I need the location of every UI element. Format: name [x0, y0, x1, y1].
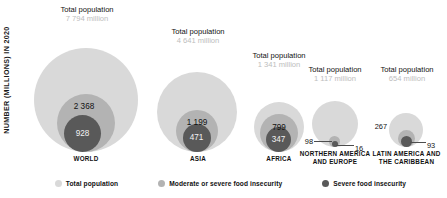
- total-population-caption-asia: Total population 4 641 million: [158, 28, 238, 46]
- total-population-value: 654 million: [368, 75, 446, 84]
- leader-line-moderate-severe-northern-america-and-europe: [314, 141, 332, 142]
- legend-label-moderate-or-severe-food-insecurity: Moderate or severe food insecurity: [169, 180, 282, 187]
- value-label-severe-world: 928: [68, 129, 97, 138]
- y-axis-label: NUMBER (MILLIONS) IN 2020: [0, 0, 14, 160]
- legend-item-severe-food-insecurity[interactable]: Severe food insecurity: [322, 180, 406, 187]
- category-label-line1: NORTHERN AMERICA: [300, 150, 371, 157]
- category-label-latin-america-and-the-caribbean: LATIN AMERICA AND THE CARIBBEAN: [366, 150, 447, 166]
- category-label-asia: ASIA: [148, 155, 248, 163]
- leader-line-severe-northern-america-and-europe: [336, 145, 354, 146]
- bubble-group-latin-america-and-the-caribbean[interactable]: Total population 654 million 267 93 LATI…: [366, 0, 447, 168]
- total-population-caption-northern-america-and-europe: Total population 1 117 million: [295, 66, 375, 84]
- value-label-moderate-severe-africa: 799: [261, 123, 297, 132]
- bubble-group-northern-america-and-europe[interactable]: Total population 1 117 million 98 16 NOR…: [296, 0, 374, 168]
- value-label-moderate-severe-world: 2 368: [66, 102, 102, 111]
- total-population-value: 4 641 million: [158, 37, 238, 46]
- category-label-northern-america-and-europe: NORTHERN AMERICA AND EUROPE: [294, 150, 376, 166]
- value-label-severe-latin-america-and-the-caribbean: 93: [427, 141, 443, 150]
- y-axis-label-text: NUMBER (MILLIONS) IN 2020: [3, 26, 11, 133]
- legend-item-total-population[interactable]: Total population: [55, 180, 118, 187]
- legend-swatch-moderate-or-severe-food-insecurity-icon: [158, 180, 165, 187]
- plot-area: Total population 7 794 million 2 368 928…: [14, 0, 447, 168]
- leader-line-severe-latin-america-and-the-caribbean: [410, 142, 426, 143]
- value-label-severe-asia: 471: [182, 133, 211, 142]
- value-label-moderate-severe-asia: 1 199: [179, 118, 215, 127]
- bubble-group-asia[interactable]: Total population 4 641 million 1 199 471…: [148, 0, 248, 168]
- total-population-value: 7 794 million: [47, 15, 127, 24]
- legend-swatch-total-population-icon: [55, 180, 62, 187]
- value-label-severe-africa: 347: [264, 135, 293, 144]
- legend-label-total-population: Total population: [66, 180, 118, 187]
- legend-item-moderate-or-severe-food-insecurity[interactable]: Moderate or severe food insecurity: [158, 180, 282, 187]
- total-population-value: 1 117 million: [295, 75, 375, 84]
- category-label-line2: THE CARIBBEAN: [379, 158, 434, 165]
- bubble-severe-northern-america-and-europe[interactable]: [332, 141, 338, 147]
- legend-label-severe-food-insecurity: Severe food insecurity: [333, 180, 406, 187]
- category-label-world: WORLD: [28, 155, 144, 163]
- bubble-chart: NUMBER (MILLIONS) IN 2020 Total populati…: [0, 0, 447, 198]
- chart-legend: Total population Moderate or severe food…: [14, 174, 447, 192]
- value-label-moderate-severe-northern-america-and-europe: 98: [299, 137, 313, 146]
- category-label-line2: AND EUROPE: [313, 158, 357, 165]
- legend-swatch-severe-food-insecurity-icon: [322, 180, 329, 187]
- total-population-caption-world: Total population 7 794 million: [47, 6, 127, 24]
- category-label-line1: LATIN AMERICA AND: [372, 150, 440, 157]
- value-label-moderate-severe-latin-america-and-the-caribbean: 267: [369, 122, 387, 131]
- bubble-group-world[interactable]: Total population 7 794 million 2 368 928…: [28, 0, 144, 168]
- total-population-caption-latin-america-and-the-caribbean: Total population 654 million: [368, 66, 446, 84]
